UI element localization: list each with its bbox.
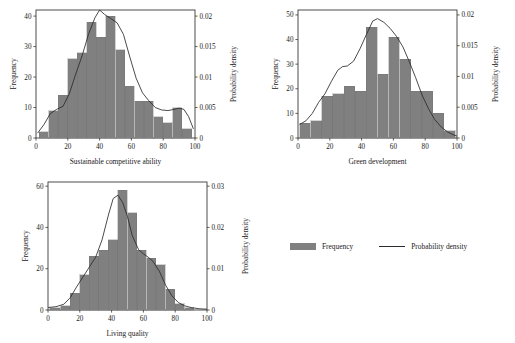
y2-tick-label: 0.015 [200, 43, 217, 51]
histogram-bar [173, 108, 182, 138]
histogram-bar [433, 113, 444, 138]
histogram-bar [118, 190, 127, 310]
histogram-bar [185, 308, 194, 310]
x-tick-label: 20 [326, 143, 334, 151]
histogram-bar [182, 129, 191, 138]
chart-green-development: 0204060801000102030405000.0050.010.0150.… [262, 0, 505, 170]
y2-tick-label: 0.015 [462, 42, 479, 50]
x-tick-label: 0 [34, 143, 38, 151]
histogram-bar [344, 86, 355, 138]
y-tick-label: 40 [286, 36, 294, 44]
y2-tick-label: 0.02 [212, 224, 225, 232]
histogram-bar [68, 59, 77, 138]
histogram-bar [389, 37, 400, 138]
histogram-bar [87, 22, 96, 138]
x-tick-label: 40 [108, 315, 116, 323]
y-tick-label: 60 [36, 183, 44, 191]
histogram-bar [333, 94, 344, 138]
histogram-bar [39, 132, 48, 138]
y-axis-label: Frequency [21, 230, 30, 261]
probability-density-line-sample [379, 246, 405, 247]
y-tick-label: 10 [24, 104, 32, 112]
y-tick-label: 0 [28, 135, 32, 143]
histogram-bar [96, 37, 105, 138]
chart-sustainable-competitive-ability: 02040608010001020304000.0050.010.0150.02… [0, 0, 243, 170]
histogram-bar [61, 306, 70, 310]
x-tick-label: 80 [160, 143, 168, 151]
histogram-bar [106, 16, 115, 138]
y-tick-label: 0 [290, 135, 294, 143]
y-tick-label: 10 [286, 110, 294, 118]
x-tick-label: 60 [140, 315, 148, 323]
x-tick-label: 0 [296, 143, 300, 151]
y2-tick-label: 0.005 [462, 104, 479, 112]
bars-sustainable-competitive-ability [39, 16, 191, 138]
y-tick-label: 0 [40, 307, 44, 315]
x-tick-label: 0 [46, 315, 50, 323]
y-tick-label: 30 [286, 61, 294, 69]
histogram-bar [108, 240, 117, 310]
chart-living-quality: 020406080100020406000.010.020.03Living q… [12, 172, 255, 342]
histogram-bar [50, 308, 61, 310]
histogram-bar [378, 74, 389, 138]
y2-tick-label: 0 [200, 135, 204, 143]
histogram-bar [322, 96, 333, 138]
x-tick-label: 100 [190, 143, 201, 151]
histogram-bar [135, 101, 144, 138]
y2-tick-label: 0.02 [462, 11, 475, 19]
y2-tick-label: 0.03 [212, 183, 225, 191]
x-axis-label: Sustainable competitive ability [70, 157, 162, 166]
histogram-bar [411, 91, 422, 138]
histogram-bar [400, 59, 411, 138]
legend-label-frequency: Frequency [322, 242, 353, 251]
y-tick-label: 40 [24, 13, 32, 21]
histogram-bar [156, 265, 165, 310]
y2-tick-label: 0.01 [200, 74, 213, 82]
x-tick-label: 20 [76, 315, 84, 323]
x-axis-label: Living quality [106, 329, 148, 338]
histogram-bar [128, 213, 137, 310]
x-axis-label: Green development [348, 157, 407, 166]
histogram-bar [125, 86, 134, 138]
y2-tick-label: 0.01 [212, 265, 225, 273]
y2-axis-label: Probability density [229, 46, 238, 102]
histogram-bar [366, 27, 377, 138]
x-tick-label: 80 [422, 143, 430, 151]
histogram-bar [58, 95, 67, 138]
histogram-bar [144, 101, 153, 138]
legend-label-probability-density: Probability density [411, 242, 467, 251]
histogram-bar [355, 91, 366, 138]
histogram-bar [137, 250, 146, 310]
x-tick-label: 40 [96, 143, 104, 151]
y-tick-label: 30 [24, 43, 32, 51]
x-tick-label: 100 [202, 315, 213, 323]
histogram-bar [147, 258, 156, 310]
histogram-bar [116, 50, 125, 138]
chart-panel-sustainable-competitive-ability: 02040608010001020304000.0050.010.0150.02… [0, 0, 243, 170]
chart-panel-living-quality: 020406080100020406000.010.020.03Living q… [12, 172, 255, 342]
y2-axis-label: Probability density [491, 46, 500, 102]
x-tick-label: 20 [64, 143, 72, 151]
y-tick-label: 50 [286, 11, 294, 19]
histogram-bar [99, 250, 108, 310]
bars-living-quality [50, 190, 194, 310]
x-tick-label: 60 [390, 143, 398, 151]
bars-green-development [300, 27, 456, 138]
y2-tick-label: 0.01 [462, 73, 475, 81]
y-axis-label: Frequency [271, 58, 280, 89]
x-tick-label: 60 [128, 143, 136, 151]
histogram-bar [444, 131, 455, 138]
x-tick-label: 80 [172, 315, 180, 323]
y-axis-label: Frequency [9, 58, 18, 89]
y2-axis-label: Probability density [241, 218, 250, 274]
y-tick-label: 40 [36, 224, 44, 232]
frequency-swatch [290, 243, 316, 250]
y2-tick-label: 0 [212, 307, 216, 315]
y2-tick-label: 0.02 [200, 13, 213, 21]
y2-tick-label: 0 [462, 135, 466, 143]
legend: Frequency Probability density [290, 242, 467, 251]
histogram-bar [311, 121, 322, 138]
y2-tick-label: 0.005 [200, 104, 217, 112]
histogram-bar [300, 123, 311, 138]
y-tick-label: 20 [24, 74, 32, 82]
